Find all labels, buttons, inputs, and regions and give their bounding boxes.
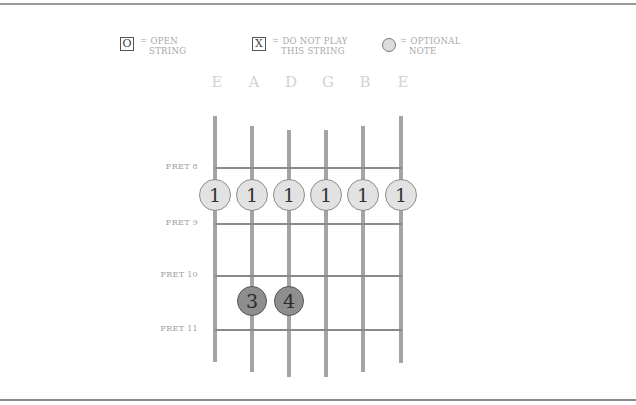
- finger-dot: 1: [236, 179, 268, 211]
- legend-optional-text: = OPTIONAL NOTE: [400, 36, 461, 56]
- fret-label: FRET 11: [138, 324, 198, 333]
- finger-dot: 1: [199, 179, 231, 211]
- bottom-rule: [0, 399, 636, 401]
- fret-label: FRET 10: [138, 270, 198, 279]
- string-label: G: [318, 73, 338, 91]
- mute-string-icon: X: [252, 37, 266, 51]
- fret-line: [215, 167, 402, 169]
- finger-dot: 1: [347, 179, 379, 211]
- finger-dot: 1: [385, 179, 417, 211]
- finger-dot: 3: [237, 286, 267, 316]
- finger-dot: 1: [273, 179, 305, 211]
- string-label: E: [207, 73, 227, 91]
- guitar-string: [361, 126, 365, 372]
- finger-dot: 1: [310, 179, 342, 211]
- finger-dot: 4: [274, 286, 304, 316]
- fret-label: FRET 8: [138, 162, 198, 171]
- optional-note-icon: [382, 38, 396, 52]
- string-label: E: [393, 73, 413, 91]
- string-label: D: [281, 73, 301, 91]
- legend-open-text: = OPEN STRING: [140, 36, 186, 56]
- top-rule: [0, 3, 636, 5]
- string-label: B: [355, 73, 375, 91]
- fret-line: [215, 275, 402, 277]
- legend-mute-text: = DO NOT PLAY THIS STRING: [272, 36, 348, 56]
- string-label: A: [244, 73, 264, 91]
- open-string-icon: O: [120, 37, 134, 51]
- guitar-string: [399, 116, 403, 363]
- fret-label: FRET 9: [138, 218, 198, 227]
- guitar-string: [213, 116, 217, 362]
- fret-line: [215, 329, 402, 331]
- guitar-string: [250, 126, 254, 372]
- fret-line: [215, 223, 402, 225]
